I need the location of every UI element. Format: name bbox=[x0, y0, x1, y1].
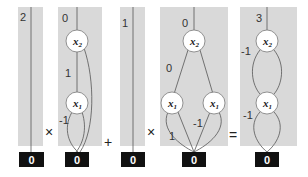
terminal-label: 0 bbox=[74, 154, 80, 166]
terminal-label: 0 bbox=[264, 154, 270, 166]
root-weight: 0 bbox=[182, 17, 188, 29]
terminal-label: 0 bbox=[191, 154, 197, 166]
edge-weight: -1 bbox=[243, 109, 253, 121]
root-weight: 0 bbox=[62, 12, 68, 24]
edge-weight: 1 bbox=[169, 130, 175, 142]
terminal-label: 0 bbox=[28, 154, 34, 166]
terminal-label: 0 bbox=[130, 154, 136, 166]
edge-weight: -1 bbox=[193, 117, 203, 129]
panel-1-bg bbox=[18, 7, 43, 146]
edge-weight: 0 bbox=[166, 62, 172, 74]
edd-diagram: 2 0 × 0 1 -1 x2 x1 0 + 1 0 × 0 bbox=[0, 0, 308, 177]
operator-equals: = bbox=[229, 127, 237, 143]
edge-weight: -1 bbox=[241, 45, 251, 57]
edge-weight: -1 bbox=[59, 114, 69, 126]
operator-plus: + bbox=[104, 134, 112, 150]
operator-times: × bbox=[45, 124, 53, 140]
root-weight: 2 bbox=[20, 11, 26, 23]
panel-5-bg bbox=[240, 7, 297, 146]
operator-times: × bbox=[147, 124, 155, 140]
edge-weight: 1 bbox=[65, 67, 71, 79]
root-weight: 1 bbox=[122, 17, 128, 29]
root-weight: 3 bbox=[256, 12, 262, 24]
